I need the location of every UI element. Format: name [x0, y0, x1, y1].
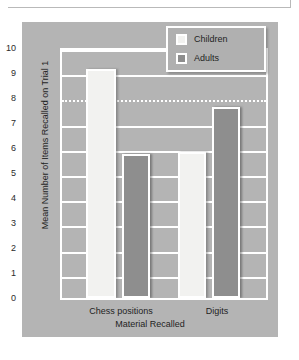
legend-item-children: Children [176, 34, 228, 45]
y-tick-label-5: 5 [0, 169, 16, 178]
y-tick-label-7: 7 [0, 119, 16, 128]
adults-swatch-icon [176, 53, 187, 64]
plot-area [60, 48, 268, 300]
x-tick-label-chess-positions: Chess positions [66, 306, 176, 316]
legend-label-adults: Adults [194, 53, 219, 64]
y-tick-label-9: 9 [0, 69, 16, 78]
x-tick-label-digits: Digits [182, 306, 252, 316]
y-tick-label-3: 3 [0, 219, 16, 228]
chart-legend: Children Adults [166, 26, 266, 72]
y-axis-title: Mean Number of Items Recalled on Trial 1 [40, 30, 50, 260]
y-tick-label-0: 0 [0, 294, 16, 303]
y-tick-label-6: 6 [0, 144, 16, 153]
bar-adults-digits [212, 107, 240, 298]
y-tick-label-10: 10 [0, 44, 16, 53]
page-top-rule [8, 7, 291, 8]
legend-item-adults: Adults [176, 53, 219, 64]
y-tick-label-8: 8 [0, 94, 16, 103]
plot-inner [62, 50, 266, 298]
bar-children-chess-positions [86, 69, 116, 298]
legend-label-children: Children [194, 34, 228, 45]
page-top-rule-cap [290, 0, 291, 8]
figure-panel: Mean Number of Items Recalled on Trial 1… [22, 22, 278, 337]
y-tick-label-4: 4 [0, 194, 16, 203]
x-axis-title: Material Recalled [22, 319, 278, 329]
bar-adults-chess-positions [122, 154, 150, 298]
bar-children-digits [178, 152, 206, 298]
y-tick-label-1: 1 [0, 269, 16, 278]
children-swatch-icon [176, 34, 187, 45]
y-tick-label-2: 2 [0, 244, 16, 253]
